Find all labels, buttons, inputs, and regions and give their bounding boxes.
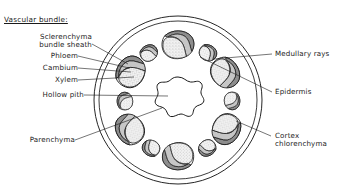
label-epidermis: Epidermis bbox=[275, 88, 312, 96]
vascular-bundle-large bbox=[162, 143, 193, 170]
label-hollow-pith: Hollow pith bbox=[0, 91, 84, 99]
label-cambium: Cambium bbox=[0, 64, 78, 72]
label-xylem: Xylem bbox=[0, 76, 78, 84]
vascular-bundle-small bbox=[117, 92, 133, 110]
vascular-bundle-large bbox=[162, 31, 194, 59]
label-sclerenchyma-line2: bundle sheath bbox=[0, 41, 92, 49]
vascular-bundle-heading: Vascular bundle: bbox=[4, 16, 68, 24]
label-phloem: Phloem bbox=[0, 52, 78, 60]
label-cortex-line2: chlorenchyma bbox=[275, 140, 327, 148]
label-medullary-rays: Medullary rays bbox=[275, 50, 329, 58]
label-parenchyma: Parenchyma bbox=[0, 136, 75, 144]
vascular-bundle-small bbox=[224, 92, 240, 110]
figure-canvas: Vascular bundle: Sclerenchyma bundle she… bbox=[0, 0, 347, 191]
